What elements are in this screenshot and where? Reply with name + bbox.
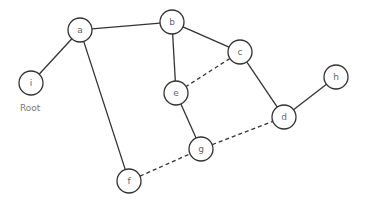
nodes: abcehdgfi [19, 10, 348, 193]
node-label: d [281, 112, 287, 122]
edge-a-f [84, 41, 126, 169]
node-d: d [272, 105, 296, 129]
edge-g-d [212, 121, 273, 144]
node-label: c [238, 47, 243, 57]
edge-a-b [92, 23, 160, 29]
node-g: g [189, 137, 213, 161]
root-label: Root [20, 103, 41, 113]
node-label: g [198, 144, 204, 154]
edge-c-d [247, 62, 278, 107]
node-c: c [228, 40, 252, 64]
node-label: i [30, 78, 33, 88]
node-f: f [117, 169, 141, 193]
edge-c-e [186, 58, 230, 86]
node-b: b [160, 10, 184, 34]
node-label: h [333, 72, 339, 82]
graph-diagram: abcehdgfi Root [0, 0, 365, 203]
edge-e-g [181, 104, 196, 138]
edge-f-g [140, 154, 190, 176]
edge-b-c [183, 27, 229, 47]
node-label: a [77, 25, 83, 35]
node-e: e [164, 81, 188, 105]
node-i: i [19, 71, 43, 95]
node-label: b [169, 17, 175, 27]
edge-a-i [39, 39, 72, 74]
node-label: e [173, 88, 179, 98]
edge-d-h [294, 84, 327, 109]
edge-b-e [173, 34, 176, 81]
node-a: a [68, 18, 92, 42]
node-h: h [324, 65, 348, 89]
